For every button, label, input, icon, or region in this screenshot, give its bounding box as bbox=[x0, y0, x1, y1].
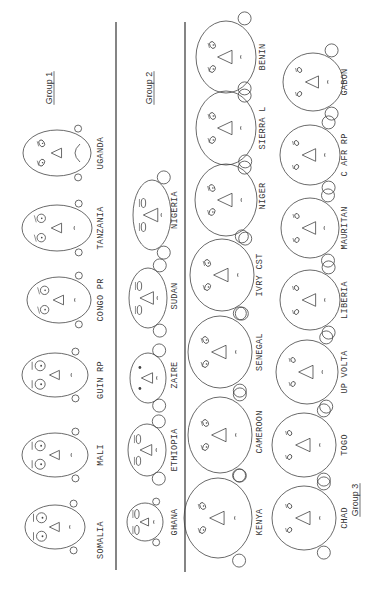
group-label: Group 2 bbox=[144, 72, 154, 105]
face-benin: BENIN bbox=[196, 12, 268, 102]
face-tanzania: TANZANIA bbox=[22, 200, 106, 256]
ear-icon bbox=[72, 395, 79, 402]
eye-icon bbox=[135, 510, 139, 519]
country-label: KENYA bbox=[255, 508, 265, 536]
eye-icon bbox=[290, 381, 296, 388]
eye-icon bbox=[35, 441, 45, 451]
face-gabon: GABON bbox=[283, 44, 350, 120]
eyebrow-icon bbox=[34, 235, 36, 242]
head-outline bbox=[130, 353, 166, 403]
country-label: SENEGAL bbox=[255, 333, 265, 371]
ear-icon bbox=[75, 321, 82, 328]
country-label: TANZANIA bbox=[96, 206, 106, 250]
mouth-icon bbox=[157, 376, 158, 380]
nose-icon bbox=[302, 222, 315, 235]
mouth-icon bbox=[74, 226, 75, 230]
country-label: ETHIOPIA bbox=[170, 428, 180, 472]
ear-icon bbox=[75, 272, 82, 279]
face-ghana: GHANA bbox=[127, 498, 180, 546]
nose-icon bbox=[214, 268, 228, 282]
nose-icon bbox=[141, 373, 152, 384]
face-liberia: LIBERIA bbox=[280, 261, 350, 339]
nose-icon bbox=[140, 292, 153, 305]
nose-icon bbox=[210, 511, 224, 525]
country-label: SIERRA L bbox=[258, 106, 268, 149]
pupil-icon bbox=[206, 339, 207, 340]
pupil-icon bbox=[42, 143, 43, 144]
mouth-icon bbox=[324, 226, 325, 230]
head-outline bbox=[188, 316, 252, 388]
eyebrow-icon bbox=[293, 286, 294, 290]
mouth-icon bbox=[320, 516, 321, 520]
mouth-icon bbox=[236, 350, 237, 354]
nose-icon bbox=[140, 445, 152, 456]
nose-icon bbox=[50, 450, 60, 459]
eye-icon bbox=[202, 443, 210, 452]
ear-icon bbox=[75, 174, 82, 181]
eyebrow-icon bbox=[286, 431, 287, 435]
eye-icon bbox=[204, 283, 212, 292]
country-label: IVRY CST bbox=[255, 253, 265, 296]
ear-icon bbox=[317, 404, 330, 417]
pupil-icon bbox=[42, 535, 44, 537]
eye-icon bbox=[208, 184, 216, 193]
head-outline bbox=[133, 180, 171, 250]
head-outline bbox=[283, 53, 343, 111]
face-sudan: SUDAN bbox=[129, 259, 180, 337]
eye-icon bbox=[35, 361, 45, 371]
nose-icon bbox=[218, 193, 232, 207]
mouth-icon bbox=[325, 153, 326, 157]
ear-icon bbox=[153, 344, 166, 357]
nose-icon bbox=[51, 148, 61, 158]
eye-icon bbox=[287, 454, 293, 461]
head-outline bbox=[188, 397, 252, 473]
head-outline bbox=[127, 503, 163, 541]
eye-icon bbox=[290, 357, 296, 364]
eye-icon bbox=[208, 136, 216, 145]
country-label: UGANDA bbox=[96, 136, 106, 169]
ear-icon bbox=[325, 107, 338, 120]
eyebrow-icon bbox=[293, 165, 294, 169]
country-label: NIGER bbox=[258, 182, 268, 209]
country-label: UP VOLTA bbox=[340, 350, 350, 394]
eye-icon bbox=[199, 526, 207, 535]
eyebrow-icon bbox=[38, 307, 40, 314]
faces-layer: SOMALIAMALIGUIN RPCONGO PRTANZANIAUGANDA… bbox=[22, 12, 350, 567]
ear-icon bbox=[238, 82, 251, 95]
mouth-icon bbox=[241, 198, 242, 202]
head-outline bbox=[184, 478, 252, 558]
pupil-icon bbox=[41, 237, 43, 239]
head-outline bbox=[196, 91, 256, 165]
pupil-icon bbox=[42, 517, 44, 519]
eye-icon bbox=[37, 513, 47, 523]
face-ivry-cst: IVRY CST bbox=[190, 230, 265, 320]
eyebrow-icon bbox=[38, 287, 40, 294]
ear-icon bbox=[233, 384, 246, 397]
ear-icon bbox=[157, 171, 170, 184]
ear-icon bbox=[317, 546, 330, 559]
head-outline bbox=[272, 413, 336, 477]
ear-icon bbox=[153, 324, 166, 337]
eyebrow-icon bbox=[293, 141, 294, 145]
ear-icon bbox=[153, 259, 166, 272]
mouth-icon bbox=[241, 55, 242, 59]
pupil-icon bbox=[212, 211, 213, 212]
nose-icon bbox=[218, 121, 232, 135]
mouth-icon bbox=[325, 298, 326, 302]
pupil-icon bbox=[203, 529, 204, 530]
nose-icon bbox=[296, 511, 310, 524]
head-outline bbox=[22, 433, 88, 477]
face-c-afr-rp: C AFR RP bbox=[280, 116, 350, 194]
mouth-icon bbox=[235, 516, 236, 520]
eye-icon bbox=[38, 139, 46, 148]
pupil-icon bbox=[40, 463, 42, 465]
country-label: TOGO bbox=[340, 434, 350, 456]
eyebrow-icon bbox=[296, 92, 297, 96]
head-outline bbox=[128, 424, 166, 476]
country-label: NIGERIA bbox=[170, 191, 180, 229]
country-label: CAMEROON bbox=[255, 410, 265, 453]
eye-icon bbox=[202, 419, 210, 428]
ear-icon bbox=[317, 477, 330, 490]
mouth-icon bbox=[71, 373, 72, 377]
face-mali: MALI bbox=[22, 428, 106, 482]
